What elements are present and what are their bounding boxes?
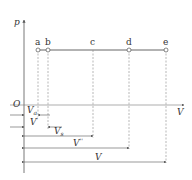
pv-diagram: p V O a b c d e Va V' [0,0,192,180]
y-axis-label: p [14,17,20,27]
point-a-marker [36,48,40,52]
dim-label-v: V [95,152,103,162]
point-c-label: c [90,37,95,47]
point-e-label: e [163,37,168,47]
dim-label-vprime: V' [30,116,39,127]
dim-label-va: Va [27,105,38,116]
point-d-label: d [126,37,132,47]
point-a-label: a [35,37,41,47]
dim-label-vs: Vs [54,126,64,137]
dim-label-vdouble: V'' [73,137,83,148]
point-d-marker [127,48,131,52]
origin-label: O [13,99,21,109]
point-b-label: b [45,37,51,47]
x-axis-label: V [177,107,185,117]
dashed-guides [38,50,166,163]
point-b-marker [46,48,50,52]
point-e-marker [164,48,168,52]
